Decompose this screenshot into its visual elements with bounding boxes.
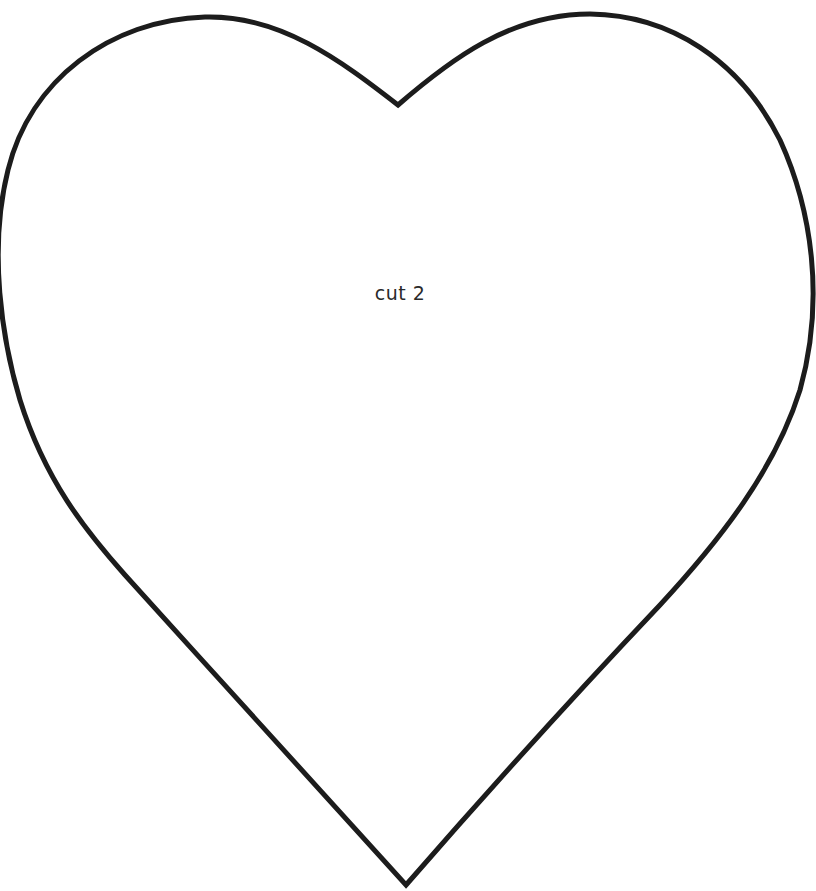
cut-instruction-label: cut 2 (0, 282, 800, 304)
heart-outline-icon (0, 0, 816, 891)
heart-outline-path (0, 14, 813, 885)
heart-template-page: cut 2 (0, 0, 816, 891)
